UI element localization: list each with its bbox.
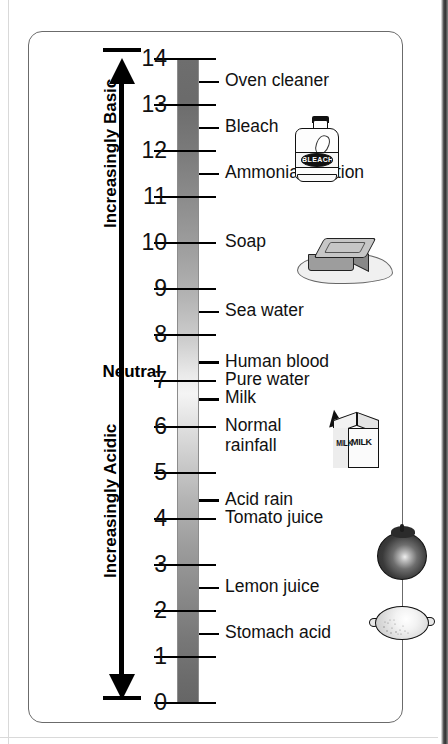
tick-minor [199, 361, 219, 364]
ph-value-label: 1 [125, 645, 167, 668]
lemon-texture [381, 618, 415, 636]
ph-value-label: 14 [125, 47, 167, 70]
tick-minor [199, 173, 219, 176]
figure-border: Increasingly Basic Neutral Increasingly … [28, 31, 403, 723]
ph-scale-figure: Increasingly Basic Neutral Increasingly … [0, 0, 448, 744]
bleach-base [297, 174, 337, 182]
ph-value-label: 2 [125, 599, 167, 622]
soap-bar-icon [297, 232, 393, 288]
ph-value-label: 4 [125, 507, 167, 530]
substance-label: Milk [225, 388, 256, 408]
milk-label-front: MILK [351, 437, 372, 447]
substance-label: Oven cleaner [225, 71, 329, 91]
tick-minor [199, 633, 219, 636]
tick-minor [199, 127, 219, 130]
ph-value-label: 13 [125, 93, 167, 116]
ph-value-label: 12 [125, 139, 167, 162]
tick-minor [199, 398, 219, 401]
substance-label: Bleach [225, 117, 279, 137]
soap-inner-edge [324, 242, 366, 253]
page-edge-band [441, 0, 448, 744]
ph-value-label: 7 [125, 369, 167, 392]
substance-label: Normal rainfall [225, 416, 281, 455]
substance-label: Lemon juice [225, 577, 319, 597]
substance-label: Stomach acid [225, 623, 331, 643]
substance-label: Sea water [225, 301, 304, 321]
bleach-label-text: BLEACH [301, 153, 333, 167]
tomato-body [377, 532, 427, 580]
tick-minor [199, 587, 219, 590]
tick-minor [199, 311, 219, 314]
substance-label: Soap [225, 232, 266, 252]
ph-value-label: 8 [125, 323, 167, 346]
tick-minor [199, 81, 219, 84]
ph-value-label: 0 [125, 691, 167, 714]
tomato-icon [374, 524, 432, 582]
bleach-bottle-icon: BLEACH [291, 116, 345, 182]
ph-scale-area: 14131211109876543210Oven cleanerBleachAm… [29, 32, 404, 724]
ph-value-label: 3 [125, 553, 167, 576]
substance-label: Tomato juice [225, 508, 323, 528]
scan-edge-left [8, 0, 9, 744]
scan-edge-bottom [0, 737, 448, 738]
lemon-icon [369, 600, 435, 646]
ph-value-label: 9 [125, 277, 167, 300]
milk-side-panel [333, 428, 349, 468]
ph-value-label: 6 [125, 415, 167, 438]
ph-value-label: 5 [125, 461, 167, 484]
ph-value-label: 11 [125, 185, 167, 208]
tick-minor [199, 499, 219, 502]
milk-carton-icon: MILK MILK [325, 410, 387, 472]
tomato-stalk [400, 524, 404, 532]
ph-value-label: 10 [125, 231, 167, 254]
